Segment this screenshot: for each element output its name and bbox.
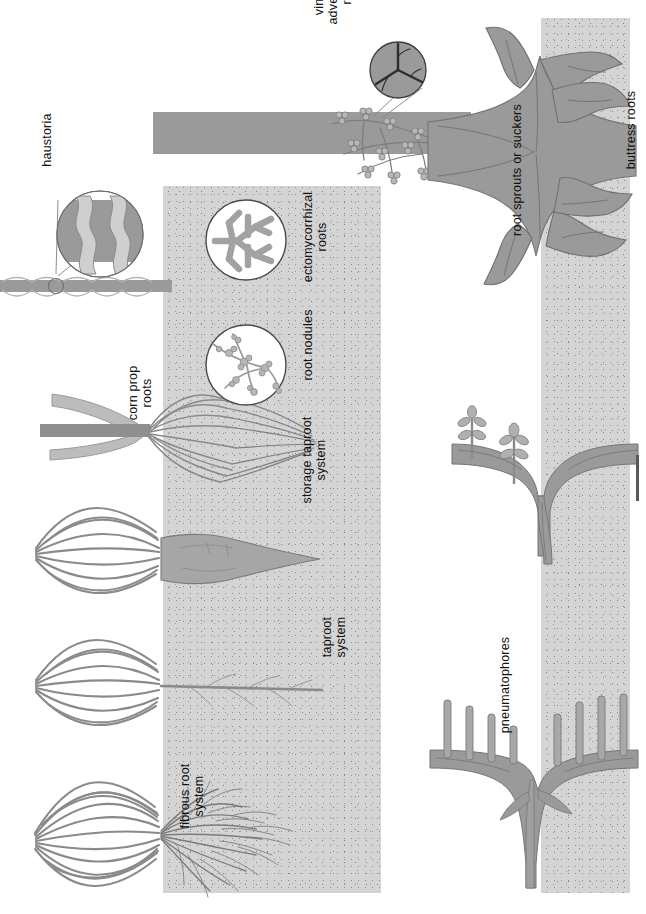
- label-haustoria: haustoria: [40, 100, 54, 180]
- scale-tick-mark: [636, 455, 639, 501]
- root-sprouts-suckers: [452, 378, 642, 568]
- ectomycorrhizal-roots-inset: [203, 197, 289, 283]
- label-pneumatophores: pneumatophores: [498, 630, 512, 740]
- label-buttress-roots: buttress roots: [624, 80, 638, 180]
- adventitious-root-inset: [366, 38, 430, 102]
- storage-taproot-plant: [30, 490, 330, 620]
- label-ectomycorrhizal-roots: ectomycorrhizal roots: [301, 182, 329, 292]
- label-taproot-system: taproot system: [320, 602, 348, 672]
- label-storage-taproot-system: storage taproot system: [300, 408, 328, 512]
- label-fibrous-root-system: fibrous root system: [178, 752, 206, 840]
- figure-canvas: haustoria corn prop roots root nodules e…: [0, 0, 646, 914]
- label-root-nodules: root nodules: [301, 300, 315, 390]
- label-vine-adventitious-roots: vine with adventitious roots: [312, 0, 354, 32]
- buttress-root-tree: [428, 26, 638, 286]
- label-corn-prop-roots: corn prop roots: [126, 356, 154, 430]
- taproot-plant: [30, 620, 330, 750]
- label-root-sprouts: root sprouts or suckers: [510, 90, 524, 250]
- pneumatophore-root: [430, 640, 640, 890]
- haustoria-inset: [52, 186, 148, 282]
- root-nodules-inset: [203, 322, 289, 408]
